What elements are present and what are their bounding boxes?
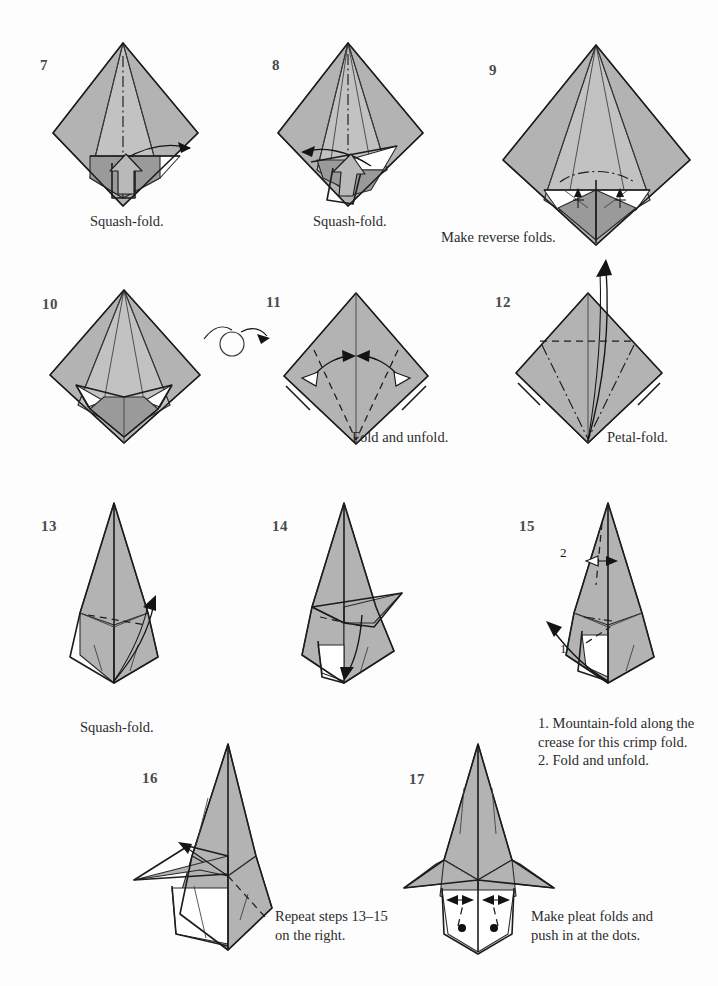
- step15-inline-label-1: 1: [560, 641, 567, 656]
- paper-back-15: [582, 635, 608, 677]
- step-number-7: 7: [40, 57, 48, 74]
- caption-17: Make pleat folds and push in at the dots…: [531, 907, 653, 944]
- caption-16: Repeat steps 13–15 on the right.: [275, 907, 388, 944]
- push-dot-left-17: [458, 924, 466, 932]
- push-dot-right-17: [490, 924, 498, 932]
- caption-12: Petal-fold.: [607, 428, 668, 447]
- step-figure-12: [500, 255, 700, 455]
- turn-over-symbol: [199, 318, 274, 370]
- paper-lower-right-15: [608, 613, 654, 683]
- turn-over-right-arc: [241, 329, 267, 336]
- turn-over-loop: [220, 332, 244, 356]
- step-figure-8: [275, 38, 455, 213]
- step-figure-15: 2 1: [520, 495, 710, 695]
- origami-diagram-page: 7 Squash-fold. 8: [0, 0, 718, 986]
- paper-upper-16: [192, 744, 256, 876]
- step15-inline-label-2: 2: [560, 545, 567, 560]
- caption-9: Make reverse folds.: [441, 228, 556, 247]
- step-number-9: 9: [489, 62, 497, 79]
- step-figure-14: [282, 495, 462, 695]
- paper-base-12: [516, 293, 662, 443]
- step-figure-7: [50, 38, 230, 213]
- caption-11: Fold and unfold.: [352, 428, 448, 447]
- turn-over-arrow-head: [257, 334, 270, 344]
- step-figure-9: [500, 40, 710, 250]
- caption-13: Squash-fold.: [80, 718, 154, 737]
- caption-8: Squash-fold.: [313, 212, 387, 231]
- step-number-11: 11: [266, 294, 281, 311]
- step-figure-13: [50, 495, 230, 695]
- caption-7: Squash-fold.: [90, 212, 164, 231]
